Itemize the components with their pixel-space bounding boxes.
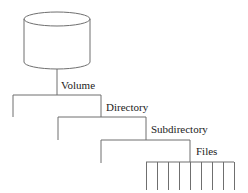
directory-label: Directory — [106, 101, 149, 113]
files-leaves — [146, 162, 235, 190]
level1-branch — [13, 95, 101, 117]
files-label: Files — [196, 145, 217, 157]
volume-label: Volume — [61, 79, 95, 91]
level2-branch — [58, 117, 146, 140]
file-hierarchy-diagram: Volume Directory Subdirectory Files — [0, 0, 248, 193]
subdirectory-label: Subdirectory — [151, 123, 208, 135]
disk-cylinder-icon — [24, 12, 90, 69]
level3-branch — [101, 140, 190, 163]
